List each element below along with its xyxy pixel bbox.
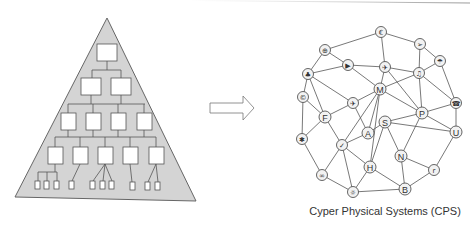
network-edge (302, 139, 322, 175)
check-icon: ✓ (337, 140, 348, 151)
svg-text:✈: ✈ (382, 64, 388, 72)
node-r: r (429, 165, 440, 176)
svg-text:H: H (367, 163, 374, 173)
svg-text:S: S (382, 118, 388, 128)
airplane-icon: ✈ (348, 98, 359, 109)
svg-text:♣: ♣ (305, 71, 311, 79)
network-edge (308, 74, 353, 103)
network-edge (325, 32, 381, 50)
airplane-icon: ✈ (380, 62, 391, 73)
cog-icon: ⊕ (320, 45, 331, 56)
node-N: N (395, 150, 407, 162)
svg-text:☂: ☂ (437, 58, 443, 66)
svg-text:▶: ▶ (345, 62, 351, 70)
svg-text:✈: ✈ (350, 100, 356, 108)
sun-icon: ☼ (348, 187, 359, 198)
svg-text:©: © (300, 94, 307, 102)
cps-network-nodes: €⊕➢▶✈☂♣♫M☎©✈FPASU✱✓NHr∞B☼ (297, 27, 463, 198)
svg-text:☼: ☼ (350, 189, 356, 197)
node-B: B (399, 183, 411, 195)
node-A: A (362, 127, 374, 139)
svg-text:A: A (365, 129, 371, 139)
music-icon: ♫ (414, 68, 425, 79)
cps-caption: Cyper Physical Systems (CPS) (300, 205, 470, 217)
svg-text:N: N (398, 152, 405, 162)
node-S: S (379, 116, 391, 128)
copyright-icon: © (298, 92, 309, 103)
svg-text:P: P (419, 109, 425, 119)
node-P: P (416, 107, 428, 119)
diagram-canvas: €⊕➢▶✈☂♣♫M☎©✈FPASU✱✓NHr∞B☼ (0, 0, 473, 226)
hierarchy-pyramid (15, 18, 196, 201)
network-edge (308, 74, 325, 117)
svg-text:➢: ➢ (417, 41, 423, 49)
network-edge (380, 89, 422, 113)
send-icon: ➢ (415, 39, 426, 50)
svg-text:€: € (379, 29, 383, 37)
club-icon: ♣ (303, 69, 314, 80)
svg-text:B: B (402, 185, 408, 195)
svg-text:♫: ♫ (416, 70, 422, 78)
svg-text:M: M (376, 85, 384, 95)
node-H: H (364, 161, 376, 173)
phone-icon: ☎ (451, 98, 462, 109)
asterisk-icon: ✱ (297, 134, 308, 145)
svg-text:☎: ☎ (452, 100, 461, 108)
euro-icon: € (376, 27, 387, 38)
org-box-level1 (97, 44, 117, 61)
network-edge (308, 65, 348, 74)
svg-text:⊕: ⊕ (322, 47, 328, 55)
network-edge (353, 189, 405, 192)
svg-text:✱: ✱ (299, 136, 305, 144)
node-M: M (374, 83, 386, 95)
play-icon: ▶ (343, 60, 354, 71)
svg-text:U: U (453, 128, 460, 138)
network-edge (401, 113, 422, 156)
svg-text:r: r (433, 167, 436, 175)
network-edge (434, 132, 456, 170)
infinity-icon: ∞ (317, 170, 328, 181)
network-edge (385, 122, 456, 132)
node-F: F (319, 111, 331, 123)
transition-arrow (210, 96, 254, 120)
network-edge (302, 97, 303, 139)
svg-text:∞: ∞ (319, 172, 325, 180)
svg-text:✓: ✓ (339, 142, 345, 150)
node-U: U (450, 126, 462, 138)
umbrella-icon: ☂ (435, 56, 446, 67)
svg-text:F: F (322, 113, 328, 123)
network-edge (381, 32, 420, 44)
